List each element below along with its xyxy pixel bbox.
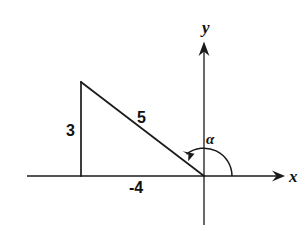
hypotenuse-label: 5	[137, 110, 146, 126]
opposite-side-label: 3	[66, 123, 75, 139]
angle-arc	[187, 148, 232, 176]
adjacent-side-label: -4	[129, 180, 143, 196]
x-axis-label: x	[289, 168, 298, 185]
trig-diagram-figure: y x 3 5 -4 α	[0, 0, 306, 231]
diagram-canvas	[0, 0, 306, 231]
y-axis-label: y	[202, 19, 210, 36]
triangle-hypotenuse	[81, 82, 204, 176]
angle-arc-arrowhead	[183, 151, 195, 161]
angle-label: α	[206, 132, 214, 147]
